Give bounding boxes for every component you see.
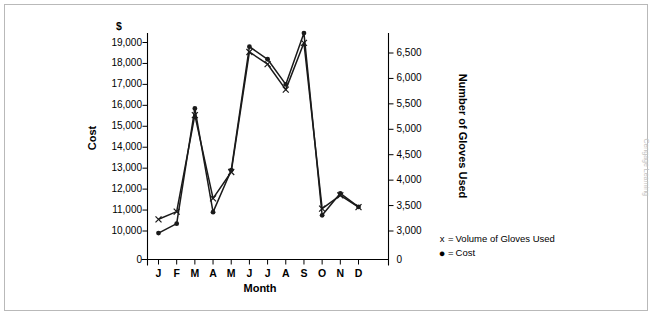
data-point-cost-J-0 — [156, 231, 161, 236]
series-group — [156, 31, 362, 236]
legend-equals-0: = — [448, 232, 454, 246]
data-point-cost-N-10 — [338, 191, 343, 196]
data-point-cost-J-6 — [265, 57, 270, 62]
legend: x = Volume of Gloves Used ● = Cost — [437, 232, 555, 260]
data-point-cost-D-11 — [356, 205, 361, 210]
figure-container: Cost Number of Gloves Used Month $ 010,0… — [0, 0, 652, 315]
data-point-gloves-A-7 — [283, 87, 289, 93]
data-point-cost-A-7 — [283, 82, 288, 87]
axes-group — [142, 33, 394, 266]
legend-item-cost: ● = Cost — [437, 246, 555, 260]
data-point-cost-J-5 — [247, 44, 252, 49]
dot-marker-icon: ● — [437, 249, 447, 258]
series-line-x — [159, 43, 359, 219]
data-point-gloves-J-0 — [156, 216, 162, 222]
data-point-cost-S-8 — [302, 31, 307, 36]
data-point-cost-M-4 — [229, 168, 234, 173]
plot-svg — [0, 0, 652, 315]
legend-equals-1: = — [448, 246, 454, 260]
publisher-credit: Cengage Learning — [643, 138, 650, 196]
legend-label-gloves: Volume of Gloves Used — [456, 232, 555, 246]
data-point-cost-O-9 — [320, 213, 325, 218]
data-point-cost-F-1 — [174, 221, 179, 226]
data-point-cost-A-3 — [211, 210, 216, 215]
legend-label-cost: Cost — [456, 246, 476, 260]
legend-item-gloves: x = Volume of Gloves Used — [437, 232, 555, 246]
x-marker-icon: x — [437, 232, 447, 246]
data-point-cost-M-2 — [192, 106, 197, 111]
